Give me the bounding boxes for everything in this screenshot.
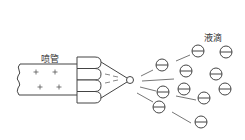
droplet-negative-icon	[195, 116, 207, 128]
droplet-negative-icon	[192, 45, 204, 57]
trail-line	[142, 79, 174, 81]
droplets	[153, 45, 232, 128]
trail-line	[176, 96, 196, 100]
nozzle-head	[77, 57, 101, 103]
positive-charges	[34, 70, 62, 90]
droplet-negative-icon	[219, 83, 231, 95]
electrospray-diagram	[0, 0, 245, 140]
droplet-negative-icon	[198, 92, 210, 104]
plus-icon	[57, 85, 62, 90]
plus-icon	[53, 70, 58, 75]
droplet-negative-icon	[180, 65, 192, 77]
trail-line	[141, 70, 153, 76]
trail-line	[137, 93, 153, 102]
nozzle-tip	[127, 77, 134, 84]
plus-icon	[34, 70, 39, 75]
nozzle-tube	[17, 64, 77, 95]
trail-line	[176, 55, 190, 61]
droplet-negative-icon	[153, 101, 165, 113]
nozzle-label: 喷管	[41, 52, 59, 65]
droplet-negative-icon	[157, 86, 169, 98]
droplet-negative-icon	[178, 83, 190, 95]
trail-line	[140, 87, 156, 91]
trail-line	[172, 112, 191, 123]
taylor-cone	[101, 62, 134, 98]
droplet-negative-icon	[220, 46, 232, 58]
droplet-negative-icon	[156, 59, 168, 71]
droplets-label: 液滴	[204, 31, 222, 44]
plus-icon	[38, 85, 43, 90]
droplet-negative-icon	[210, 68, 222, 80]
